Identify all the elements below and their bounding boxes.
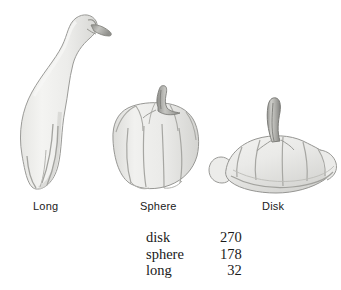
long-gourd-illustration	[20, 15, 111, 189]
disk-gourd-stem	[267, 98, 280, 142]
specimen-label-long: Long	[33, 200, 58, 212]
shape-name-cell: long	[146, 263, 210, 280]
specimen-label-disk: Disk	[262, 200, 284, 212]
shape-count-cell: 270	[210, 230, 242, 247]
shape-name-cell: disk	[146, 230, 210, 247]
table-row: disk 270	[146, 230, 242, 247]
long-gourd-body	[20, 15, 97, 189]
sphere-gourd-illustration	[113, 86, 199, 189]
sphere-gourd-body	[113, 103, 199, 189]
shape-count-table: disk 270 sphere 178 long 32	[146, 230, 242, 280]
specimen-label-sphere: Sphere	[140, 200, 177, 212]
shape-count-cell: 178	[210, 247, 242, 264]
disk-gourd-body	[226, 136, 334, 193]
disk-gourd-illustration	[209, 98, 337, 193]
gourd-shape-figure: Long Sphere Disk disk 270 sphere 178 lon…	[0, 0, 341, 290]
table-row: long 32	[146, 263, 242, 280]
shape-count-cell: 32	[210, 263, 242, 280]
table-row: sphere 178	[146, 247, 242, 264]
shape-name-cell: sphere	[146, 247, 210, 264]
